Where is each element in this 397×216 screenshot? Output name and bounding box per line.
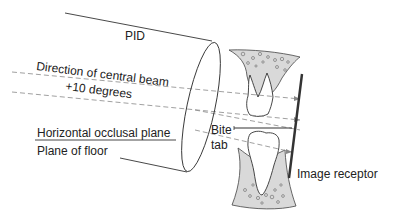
bite-label: Bite [211, 123, 232, 137]
pid-label: PID [125, 29, 145, 43]
occlusal-plane-label: Horizontal occlusal plane [37, 126, 171, 140]
floor-plane-label: Plane of floor [37, 144, 108, 158]
receptor-label: Image receptor [297, 167, 378, 181]
image-receptor [289, 74, 302, 178]
dental-radiography-diagram: PID Direction of central beam +10 degree… [0, 0, 397, 216]
tab-label: tab [211, 138, 228, 152]
